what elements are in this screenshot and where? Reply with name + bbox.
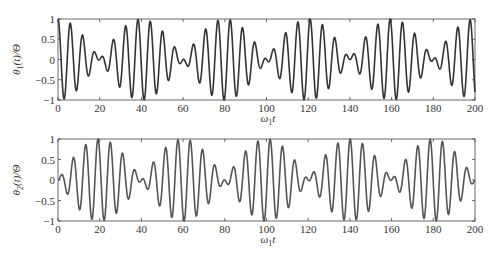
x-axis-label: ω1t [261, 233, 277, 248]
theta1-plot: 020406080100120140160180200−1−0.500.51ω1… [10, 13, 484, 127]
x-axis-label: ω1t [261, 112, 277, 127]
signal-curve [58, 139, 475, 221]
x-tick-label: 40 [136, 223, 148, 235]
y-tick-label: 1 [50, 13, 56, 25]
x-tick-label: 160 [383, 223, 400, 235]
x-tick-label: 120 [300, 102, 317, 114]
x-tick-label: 200 [467, 223, 484, 235]
y-tick-label: 0 [50, 54, 56, 66]
x-tick-label: 120 [300, 223, 317, 235]
x-tick-label: 140 [342, 102, 359, 114]
y-tick-label: −1 [43, 215, 55, 227]
y-tick-label: −0.5 [35, 195, 55, 207]
x-tick-label: 160 [383, 102, 400, 114]
y-tick-label: −0.5 [35, 74, 55, 86]
x-tick-label: 60 [178, 102, 190, 114]
x-tick-label: 40 [136, 102, 148, 114]
x-tick-label: 60 [178, 223, 190, 235]
signal-curve [58, 19, 475, 100]
x-tick-label: 20 [94, 102, 106, 114]
y-axis-label: θ2(t)/Θ [10, 165, 25, 196]
theta2-plot: 020406080100120140160180200−1−0.500.51ω1… [10, 133, 484, 248]
y-tick-label: 0 [50, 174, 56, 186]
x-tick-label: 180 [425, 223, 442, 235]
y-tick-label: 1 [50, 133, 56, 145]
x-tick-label: 140 [342, 223, 359, 235]
x-tick-label: 0 [55, 102, 61, 114]
x-tick-label: 80 [219, 223, 231, 235]
x-tick-label: 0 [55, 223, 61, 235]
y-tick-label: −1 [43, 94, 55, 106]
x-tick-label: 20 [94, 223, 106, 235]
y-tick-label: 0.5 [41, 154, 55, 166]
beating-oscillation-figure: 020406080100120140160180200−1−0.500.51ω1… [0, 0, 503, 261]
x-tick-label: 200 [467, 102, 484, 114]
x-tick-label: 80 [219, 102, 231, 114]
y-tick-label: 0.5 [41, 33, 55, 45]
y-axis-label: θ1(t)/Θ [10, 44, 25, 75]
x-tick-label: 180 [425, 102, 442, 114]
